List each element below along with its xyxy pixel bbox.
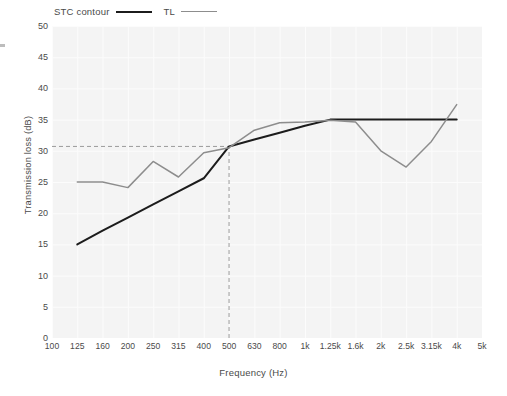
x-tick-label: 250 bbox=[146, 341, 160, 351]
x-tick-label: 125 bbox=[70, 341, 84, 351]
grid-layer bbox=[52, 26, 482, 338]
x-tick-label: 160 bbox=[95, 341, 109, 351]
x-tick-label: 4k bbox=[452, 341, 461, 351]
legend-item-tl: TL bbox=[164, 6, 230, 17]
legend-label-tl: TL bbox=[164, 6, 176, 17]
x-tick-label: 2.5k bbox=[398, 341, 414, 351]
plot-area bbox=[52, 26, 482, 338]
series-line-tl bbox=[77, 105, 456, 188]
legend-swatch-tl bbox=[181, 11, 217, 12]
legend-swatch-stc-contour bbox=[116, 11, 152, 13]
x-tick-label: 200 bbox=[121, 341, 135, 351]
legend-label-stc-contour: STC contour bbox=[54, 6, 110, 17]
series-layer bbox=[77, 105, 456, 245]
x-tick-label: 100 bbox=[45, 341, 59, 351]
x-tick-label: 400 bbox=[197, 341, 211, 351]
stc-transmission-loss-chart: STC contour TL 05101520253035404550 1001… bbox=[0, 0, 507, 396]
x-tick-label: 1.6k bbox=[347, 341, 363, 351]
x-tick-label: 630 bbox=[247, 341, 261, 351]
plot-canvas bbox=[52, 26, 482, 338]
x-axis-title: Frequency (Hz) bbox=[0, 367, 507, 378]
x-tick-label: 3.15k bbox=[421, 341, 442, 351]
y-axis-title: Transmission loss (dB) bbox=[23, 75, 33, 255]
y-tick-label: 50 bbox=[4, 21, 48, 31]
legend-item-stc-contour: STC contour bbox=[54, 6, 164, 17]
x-tick-label: 2k bbox=[376, 341, 385, 351]
y-tick-label: 5 bbox=[4, 302, 48, 312]
x-tick-label: 1.25k bbox=[320, 341, 341, 351]
chart-legend: STC contour TL bbox=[54, 6, 229, 17]
x-tick-label: 1k bbox=[300, 341, 309, 351]
x-tick-label: 5k bbox=[477, 341, 486, 351]
y-tick-label: 45 bbox=[4, 52, 48, 62]
x-tick-label: 800 bbox=[272, 341, 286, 351]
y-tick-label: 10 bbox=[4, 271, 48, 281]
x-axis-tick-labels: 1001251602002503154005006308001k1.25k1.6… bbox=[0, 341, 507, 357]
x-tick-label: 500 bbox=[222, 341, 236, 351]
x-tick-label: 315 bbox=[171, 341, 185, 351]
